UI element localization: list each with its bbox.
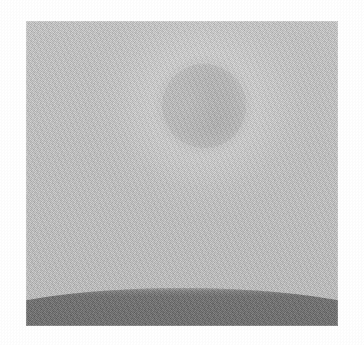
page-canvas	[0, 0, 364, 345]
image-plate	[26, 21, 338, 326]
sun-surface-mottling	[160, 62, 248, 150]
horizon-line	[26, 288, 338, 326]
